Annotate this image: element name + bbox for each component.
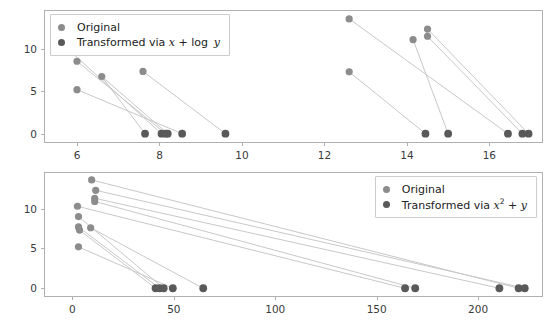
y-tick-label: 5 (0, 242, 37, 254)
y-tickmark (41, 209, 44, 210)
legend-marker-transformed-bottom (383, 201, 390, 208)
x-tick-label: 0 (69, 303, 76, 315)
y-tickmark (41, 248, 44, 249)
data-point-original (75, 243, 82, 250)
x-tickmark (377, 297, 378, 300)
x-tickmark (478, 297, 479, 300)
data-point-transformed (160, 284, 168, 292)
data-point-transformed (169, 284, 177, 292)
data-point-transformed (199, 284, 207, 292)
x-tickmark (174, 297, 175, 300)
connector-line (78, 227, 159, 288)
data-point-transformed (495, 284, 503, 292)
data-point-original (76, 227, 83, 234)
legend-entry-original-bottom: Original (383, 182, 527, 197)
connector-line (79, 230, 155, 288)
data-point-transformed (521, 284, 529, 292)
legend-entry-transformed-bottom: Transformed via x2 + y (383, 197, 527, 212)
data-point-original (92, 187, 99, 194)
legend-label-transformed-bottom: Transformed via x2 + y (402, 197, 527, 212)
y-tickmark (41, 288, 44, 289)
data-point-original (74, 203, 81, 210)
x-tickmark (275, 297, 276, 300)
connector-line (78, 247, 172, 288)
data-point-original (88, 176, 95, 183)
data-point-original (75, 213, 82, 220)
legend-label-original-bottom: Original (402, 183, 445, 196)
y-tick-label: 0 (0, 282, 37, 294)
x-tick-label: 50 (167, 303, 180, 315)
panel-bottom: 0501001502000510 Original Transformed vi… (0, 0, 556, 330)
legend-bottom: Original Transformed via x2 + y (375, 176, 537, 218)
data-point-transformed (411, 284, 419, 292)
y-tick-label: 10 (0, 203, 37, 215)
plot-area-bottom (0, 0, 556, 330)
x-tick-label: 200 (468, 303, 488, 315)
legend-marker-original-bottom (383, 186, 390, 193)
data-point-original (91, 198, 98, 205)
x-tick-label: 150 (367, 303, 387, 315)
data-point-original (87, 224, 94, 231)
figure-canvas: 68101214160510 Original Transformed via … (0, 0, 556, 330)
x-tickmark (72, 297, 73, 300)
x-tick-label: 100 (265, 303, 285, 315)
data-point-transformed (401, 284, 409, 292)
